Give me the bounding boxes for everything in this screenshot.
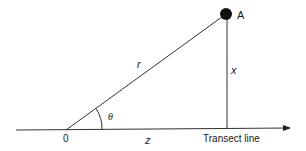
transect-line-text: Transect line [203,133,260,144]
label-x: x [230,64,237,76]
r-text: r [137,58,142,70]
point-a-text: A [237,9,245,21]
angle-arc [96,109,102,130]
point-a-marker [220,8,232,20]
transect-line [16,128,290,130]
theta-text: θ [108,111,113,122]
origin-text: 0 [63,133,69,144]
label-z: z [144,134,151,146]
label-point-a: A [237,9,245,21]
transect-diagram: A r x θ 0 z Transect line [0,0,306,151]
hypotenuse-r [66,14,226,130]
label-theta: θ [108,111,113,122]
label-r: r [137,58,142,70]
x-text: x [230,64,237,76]
label-origin: 0 [63,133,69,144]
label-transect-line: Transect line [203,133,260,144]
z-text: z [144,134,151,146]
